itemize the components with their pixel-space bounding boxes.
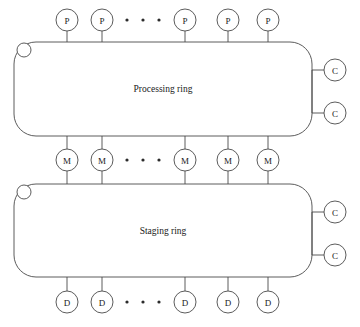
disk-node-label: D (182, 298, 189, 308)
processor-node-ellipsis-dot (141, 18, 144, 21)
disk-node-ellipsis-dot (157, 300, 160, 303)
memory-node-ellipsis-dot (125, 158, 128, 161)
disk-node-label: D (64, 298, 71, 308)
processing-ring-label: Processing ring (134, 84, 193, 94)
disk-node-label: D (265, 298, 272, 308)
controller-node-label: C (332, 251, 338, 261)
controller-node-label: C (332, 109, 338, 119)
memory-node-label: M (63, 156, 71, 166)
staging-ring-label: Staging ring (140, 226, 187, 236)
disk-node-ellipsis-dot (125, 300, 128, 303)
controller-node-label: C (332, 208, 338, 218)
staging-ring-token-circle (17, 185, 31, 199)
ellipsis-layer (125, 18, 160, 303)
memory-node-label: M (181, 156, 189, 166)
memory-node-label: M (98, 156, 106, 166)
controller-node-label: C (332, 66, 338, 76)
disk-node-ellipsis-dot (141, 300, 144, 303)
labels-layer: Processing ringStaging ringPPPPPMMMMMDDD… (63, 16, 338, 308)
processor-node-ellipsis-dot (125, 18, 128, 21)
processing-ring-token-circle (17, 43, 31, 57)
memory-node-label: M (264, 156, 272, 166)
memory-node-ellipsis-dot (141, 158, 144, 161)
memory-node-label: M (224, 156, 232, 166)
processor-node-label: P (182, 16, 187, 26)
processor-node-label: P (225, 16, 230, 26)
controllers-layer (312, 70, 324, 255)
ring-architecture-diagram: Processing ringStaging ringPPPPPMMMMMDDD… (0, 0, 360, 327)
processor-node-ellipsis-dot (157, 18, 160, 21)
memory-node-ellipsis-dot (157, 158, 160, 161)
disk-node-label: D (99, 298, 106, 308)
processor-node-label: P (99, 16, 104, 26)
processor-node-label: P (64, 16, 69, 26)
diagram-canvas: Processing ringStaging ringPPPPPMMMMMDDD… (0, 0, 360, 327)
disk-node-label: D (225, 298, 232, 308)
processor-node-label: P (265, 16, 270, 26)
